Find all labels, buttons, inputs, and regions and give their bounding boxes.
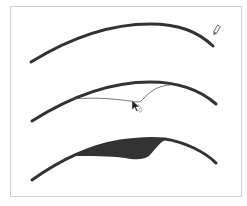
panel-2-curve	[32, 82, 216, 121]
illustration-canvas	[0, 0, 247, 206]
panel-3-filled-shape	[32, 138, 216, 180]
pencil-icon	[212, 25, 220, 36]
panel-1-curve	[31, 24, 213, 62]
